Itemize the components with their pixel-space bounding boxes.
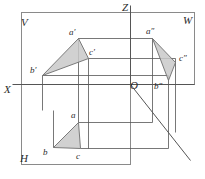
- plane-label-v: V: [21, 17, 28, 28]
- label-a-double-prime: a″: [146, 27, 154, 36]
- projected-triangles: [43, 39, 176, 149]
- projection-diagram-svg: [0, 0, 205, 179]
- label-c-prime: c′: [89, 48, 95, 57]
- label-a: a: [71, 111, 76, 120]
- axis-label-z: Z: [122, 2, 128, 13]
- plane-label-h: H: [20, 153, 28, 164]
- label-b: b: [43, 148, 48, 157]
- label-b-prime: b′: [30, 66, 36, 75]
- label-c-double-prime: c″: [179, 54, 187, 63]
- label-a-prime: a′: [69, 28, 75, 37]
- diagram-canvas: V W H X Z O a′ b′ c′ a″ b″ c″ a b c: [0, 0, 205, 179]
- w-projection-triangle: [153, 39, 176, 81]
- axis-label-x: X: [4, 84, 11, 95]
- label-c: c: [76, 152, 80, 161]
- origin-label: O: [130, 80, 138, 91]
- v-projection-triangle: [43, 39, 89, 76]
- plane-label-w: W: [183, 15, 192, 26]
- coordinate-axes: [13, 6, 195, 161]
- label-b-double-prime: b″: [154, 82, 162, 91]
- h-projection-triangle: [54, 123, 81, 149]
